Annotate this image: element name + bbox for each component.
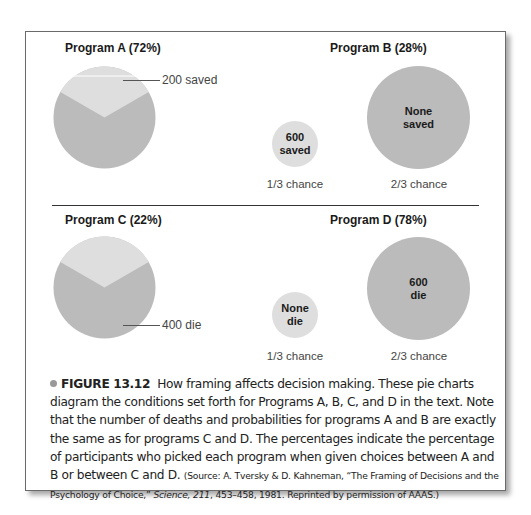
program-c-pie bbox=[53, 236, 156, 339]
source-journal: Science, 211 bbox=[153, 489, 210, 500]
program-d-large-line2: die bbox=[411, 289, 427, 301]
section-divider bbox=[52, 205, 479, 206]
program-c-callout-line bbox=[123, 325, 160, 326]
program-b-small-chance: 1/3 chance bbox=[265, 178, 325, 190]
program-b-large-line2: saved bbox=[403, 118, 434, 130]
source-suffix: , 453–458, 1981. Reprinted by permission… bbox=[210, 489, 439, 500]
program-a-title: Program A (72%) bbox=[65, 41, 161, 55]
program-b-small-line1: 600 bbox=[286, 131, 304, 143]
program-b-large-circle: Nonesaved bbox=[367, 66, 470, 169]
program-b-large-chance: 2/3 chance bbox=[388, 178, 450, 190]
program-d-large-chance: 2/3 chance bbox=[388, 350, 450, 362]
program-d-small-line2: die bbox=[287, 315, 303, 327]
program-d-small-circle: Nonedie bbox=[272, 292, 318, 338]
program-b-small-circle: 600saved bbox=[272, 121, 318, 167]
figure-caption: FIGURE 13.12 How framing affects decisio… bbox=[50, 375, 500, 504]
program-a-callout: 200 saved bbox=[162, 73, 217, 87]
program-d-large-line1: 600 bbox=[409, 276, 427, 288]
program-d-large-circle: 600die bbox=[367, 237, 470, 340]
figure-label: FIGURE 13.12 bbox=[61, 377, 150, 391]
program-c-callout: 400 die bbox=[162, 318, 201, 332]
program-d-small-line1: None bbox=[281, 302, 309, 314]
program-a-pie bbox=[53, 66, 156, 169]
program-c-title: Program C (22%) bbox=[65, 213, 162, 227]
program-d-small-chance: 1/3 chance bbox=[265, 350, 325, 362]
program-b-title: Program B (28%) bbox=[330, 41, 427, 55]
program-b-small-line2: saved bbox=[279, 144, 310, 156]
program-d-title: Program D (78%) bbox=[330, 213, 427, 227]
caption-body: How framing affects decision making. The… bbox=[50, 377, 496, 482]
program-b-large-line1: None bbox=[405, 105, 433, 117]
bullet-icon bbox=[50, 380, 57, 387]
program-a-callout-line bbox=[123, 80, 160, 81]
